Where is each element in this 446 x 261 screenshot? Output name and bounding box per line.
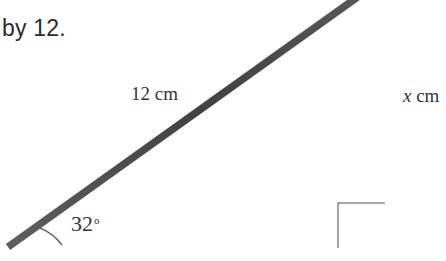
prose-text: by 12. xyxy=(2,17,66,40)
angle-arc-icon xyxy=(40,228,62,245)
right-triangle-diagram xyxy=(0,0,446,261)
unit-cm: cm xyxy=(411,85,439,106)
degree-symbol-icon: o xyxy=(94,214,100,226)
figure-page: by 12. 12 cm x cm 32o xyxy=(0,0,446,261)
right-angle-marker-icon xyxy=(338,203,385,248)
vertical-side-length-label: x cm xyxy=(403,86,439,105)
angle-value: 32 xyxy=(71,211,93,236)
angle-measure-label: 32o xyxy=(71,213,100,235)
hypotenuse-length-label: 12 cm xyxy=(131,84,178,103)
